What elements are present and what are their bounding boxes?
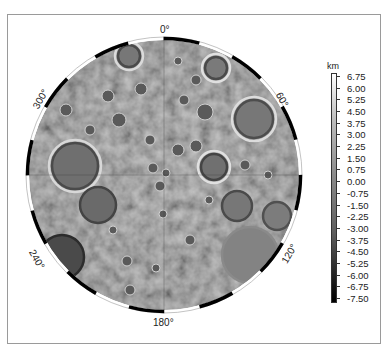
colorbar-tick-label: 2.25: [347, 142, 366, 152]
colorbar-tick: [337, 205, 340, 206]
colorbar-tick: [337, 123, 340, 124]
colorbar-tick-label: 3.75: [347, 119, 366, 129]
colorbar-tick: [337, 263, 340, 264]
colorbar-tick-label: -7.50: [347, 294, 369, 304]
colorbar-tick-label: -3.00: [347, 224, 369, 234]
colorbar-tick-label: -0.75: [347, 189, 369, 199]
colorbar-tick: [337, 76, 340, 77]
colorbar-tick: [337, 251, 340, 252]
colorbar-tick: [337, 193, 340, 194]
colorbar-tick-label: 0.75: [347, 165, 366, 175]
longitude-label-180: 180°: [153, 317, 174, 328]
colorbar-tick-label: 5.25: [347, 95, 366, 105]
colorbar-tick-label: 3.00: [347, 130, 366, 140]
colorbar-tick-label: -1.50: [347, 201, 369, 211]
colorbar-tick-label: 4.50: [347, 107, 366, 117]
terrain-disk: [29, 40, 299, 310]
colorbar-tick: [337, 216, 340, 217]
longitude-label-240: 240°: [27, 248, 47, 271]
colorbar-tick: [337, 181, 340, 182]
colorbar-tick-label: 6.75: [347, 72, 366, 82]
colorbar-tick-label: -6.75: [347, 282, 369, 292]
colorbar-tick-label: -6.00: [347, 271, 369, 281]
colorbar-tick-label: -4.50: [347, 247, 369, 257]
colorbar-tick: [337, 111, 340, 112]
colorbar-tick-label: 6.00: [347, 84, 366, 94]
colorbar-tick: [337, 286, 340, 287]
colorbar-tick-label: -3.75: [347, 236, 369, 246]
colorbar-tick: [337, 88, 340, 89]
colorbar-unit-label: km: [327, 61, 339, 71]
colorbar-tick: [337, 298, 340, 299]
colorbar-tick-label: 1.50: [347, 154, 366, 164]
colorbar-tick: [337, 146, 340, 147]
colorbar-tick-label: -5.25: [347, 259, 369, 269]
colorbar-tick: [337, 228, 340, 229]
colorbar-tick-label: -2.25: [347, 212, 369, 222]
colorbar: [331, 73, 337, 303]
colorbar-tick: [337, 99, 340, 100]
longitude-label-0: 0°: [160, 24, 170, 35]
colorbar-tick: [337, 275, 340, 276]
colorbar-tick: [337, 169, 340, 170]
colorbar-tick: [337, 158, 340, 159]
colorbar-tick-label: 0.00: [347, 177, 366, 187]
colorbar-tick: [337, 240, 340, 241]
colorbar-tick: [337, 134, 340, 135]
